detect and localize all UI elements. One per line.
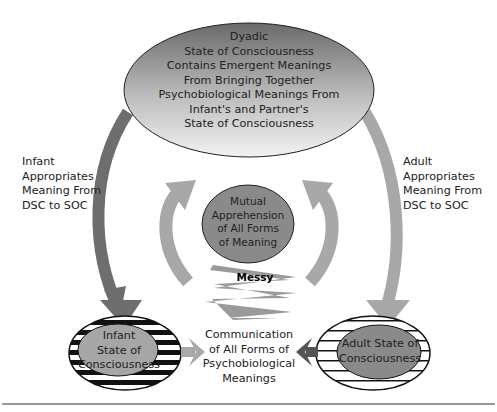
communication-line: of All Forms of	[189, 343, 309, 358]
adult-line: Consciousness	[334, 352, 426, 367]
dyadic-line: From Bringing Together	[124, 74, 374, 89]
adult-state-label: Adult State of Consciousness	[334, 337, 426, 366]
communication-line: Psychobiological	[189, 357, 309, 372]
communication-line: Communication	[189, 328, 309, 343]
adult-appropriates-label: Adult Appropriates Meaning From DSC to S…	[403, 155, 497, 213]
arrow-dyadic-to-infant	[98, 112, 142, 327]
infant-state-label: Infant State of Consciousness	[76, 329, 162, 373]
edge-label-line: DSC to SOC	[22, 199, 132, 214]
mutual-apprehension-label: Mutual Apprehension of All Forms of Mean…	[198, 195, 298, 249]
dyadic-line: Infant's and Partner's	[124, 103, 374, 118]
dyadic-state-label: Dyadic State of Consciousness Contains E…	[124, 30, 374, 132]
infant-line: Consciousness	[76, 358, 162, 373]
edge-label-line: Adult	[403, 155, 497, 170]
arrow-inner-right-up	[302, 180, 333, 282]
mutual-line: Apprehension	[198, 209, 298, 223]
messy-label: Messy	[225, 270, 285, 285]
arrow-dyadic-to-adult	[365, 112, 410, 327]
edge-label-line: Infant	[22, 155, 132, 170]
edge-label-line: DSC to SOC	[403, 199, 497, 214]
edge-label-line: Meaning From	[403, 184, 497, 199]
communication-line: Meanings	[189, 372, 309, 387]
edge-label-line: Meaning From	[22, 184, 132, 199]
dyadic-line: State of Consciousness	[124, 45, 374, 60]
mutual-line: Mutual	[198, 195, 298, 209]
dyadic-line: Psychobiological Meanings From	[124, 88, 374, 103]
infant-line: Infant	[76, 329, 162, 344]
mutual-line: of Meaning	[198, 236, 298, 250]
adult-line: Adult State of	[334, 337, 426, 352]
mutual-line: of All Forms	[198, 222, 298, 236]
dyadic-line: State of Consciousness	[124, 117, 374, 132]
dyadic-line: Dyadic	[124, 30, 374, 45]
edge-label-line: Appropriates	[403, 170, 497, 185]
communication-label: Communication of All Forms of Psychobiol…	[189, 328, 309, 386]
edge-label-line: Appropriates	[22, 170, 132, 185]
infant-line: State of	[76, 344, 162, 359]
infant-appropriates-label: Infant Appropriates Meaning From DSC to …	[22, 155, 132, 213]
dyadic-line: Contains Emergent Meanings	[124, 59, 374, 74]
arrow-inner-left-up	[165, 180, 196, 282]
